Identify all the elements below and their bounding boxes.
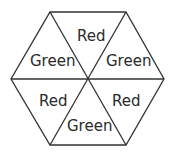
triangle-label-lower-right: Red bbox=[112, 92, 141, 110]
hexagon-diagram: Red Green Red Green Red Green bbox=[0, 0, 172, 153]
triangle-label-upper-right: Green bbox=[106, 52, 151, 70]
triangle-label-bottom: Green bbox=[67, 117, 112, 135]
triangle-label-lower-left: Red bbox=[39, 92, 68, 110]
triangle-label-top: Red bbox=[77, 27, 106, 45]
triangle-label-upper-left: Green bbox=[30, 52, 75, 70]
